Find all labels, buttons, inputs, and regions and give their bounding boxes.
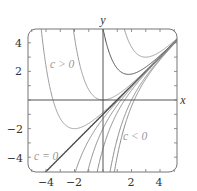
annotation-c-negative: c < 0	[123, 130, 148, 142]
x-tick-label: 2	[128, 176, 135, 189]
y-axis-label: y	[99, 13, 106, 27]
solution-curve	[68, 37, 180, 191]
solution-curves-chart: −4 −2 2 4 4 2 −2 −4 y x c > 0 c < 0 c = …	[0, 0, 197, 191]
solution-curve	[110, 38, 180, 191]
y-tick-label: 4	[15, 37, 22, 50]
annotation-c-zero: c = 0	[34, 150, 59, 162]
y-tick-label: −4	[7, 152, 23, 165]
annotation-c-positive: c > 0	[50, 58, 75, 70]
solution-curve	[106, 38, 180, 191]
solution-curve	[98, 1, 180, 75]
y-tick-label: 2	[15, 65, 22, 78]
x-tick-label: 4	[156, 176, 163, 189]
y-tick-label: −2	[7, 123, 23, 136]
solution-curve	[92, 37, 180, 191]
x-axis-label: x	[179, 93, 186, 107]
solution-curve	[82, 37, 180, 191]
x-tick-label: −2	[66, 176, 82, 189]
solution-curve	[70, 2, 180, 100]
x-tick-label: −4	[38, 176, 54, 189]
